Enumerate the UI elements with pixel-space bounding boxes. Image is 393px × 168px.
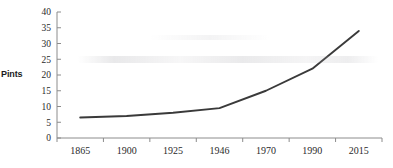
y-tick-label: 40 xyxy=(42,7,52,17)
y-tick-label: 20 xyxy=(42,70,52,80)
y-tick-label: 25 xyxy=(42,55,52,65)
x-tick-label: 1900 xyxy=(117,145,137,156)
y-tick-label: 30 xyxy=(42,39,52,49)
y-tick-label: 5 xyxy=(46,118,51,128)
x-tick-label: 2015 xyxy=(349,145,369,156)
chart-canvas: 0510152025303540 18651900192519461970199… xyxy=(0,0,393,168)
y-axis-title: Pints xyxy=(1,69,23,79)
y-axis-ticks: 0510152025303540 xyxy=(42,7,62,143)
y-tick-label: 0 xyxy=(46,133,51,143)
data-line-pints xyxy=(80,31,359,118)
data-series-layer xyxy=(80,31,359,118)
line-chart: Pints 0510152025303540 18651900192519461… xyxy=(0,0,393,168)
y-tick-label: 15 xyxy=(42,86,52,96)
x-tick-label: 1990 xyxy=(302,145,322,156)
x-tick-label: 1970 xyxy=(256,145,276,156)
x-tick-label: 1865 xyxy=(70,145,90,156)
y-tick-label: 10 xyxy=(42,102,52,112)
x-axis-ticks: 1865190019251946197019902015 xyxy=(57,138,382,156)
y-tick-label: 35 xyxy=(42,23,52,33)
x-tick-label: 1946 xyxy=(210,145,230,156)
x-tick-label: 1925 xyxy=(163,145,183,156)
